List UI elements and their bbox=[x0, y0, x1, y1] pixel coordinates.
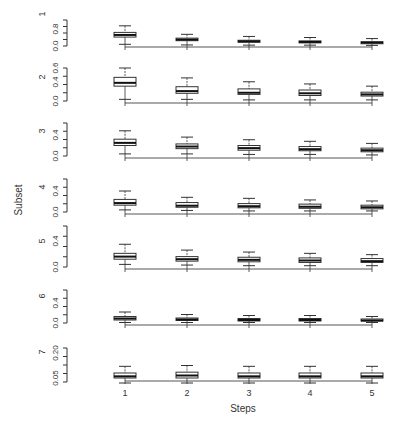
y-tick-label: 0.4 bbox=[51, 235, 60, 247]
box-step-3 bbox=[238, 82, 260, 106]
x-tick-label: 1 bbox=[122, 388, 127, 398]
x-tick-label: 4 bbox=[307, 388, 312, 398]
panel-6: 0.00.46 bbox=[37, 290, 383, 329]
y-tick-label: 0.0 bbox=[51, 206, 60, 218]
box-step-4 bbox=[299, 316, 321, 329]
panel-7: 0.050.207 bbox=[37, 345, 383, 386]
box-step-2 bbox=[176, 34, 198, 50]
panel-label: 6 bbox=[37, 293, 47, 298]
panel-label: 4 bbox=[37, 184, 47, 189]
x-tick-label: 2 bbox=[184, 388, 189, 398]
box-step-1 bbox=[114, 244, 136, 272]
y-tick-label: 0.0 bbox=[51, 150, 60, 162]
box-step-1 bbox=[114, 312, 136, 328]
panel-3: 0.00.43 bbox=[37, 123, 383, 162]
panels-group: 0.00.810.00.40.620.00.430.00.440.00.450.… bbox=[37, 11, 383, 385]
y-tick-label: 0.0 bbox=[51, 317, 60, 329]
panel-label: 5 bbox=[37, 238, 47, 243]
panel-5: 0.00.45 bbox=[37, 226, 383, 273]
panel-4: 0.00.44 bbox=[37, 179, 383, 218]
y-axis-title: Subset bbox=[13, 184, 24, 215]
x-tick-label: 5 bbox=[369, 388, 374, 398]
box-step-1 bbox=[114, 191, 136, 217]
box-step-2 bbox=[176, 78, 198, 106]
y-tick-label: 0.0 bbox=[51, 95, 60, 107]
y-tick-label: 0.6 bbox=[51, 62, 60, 74]
boxplot-figure: 0.00.810.00.40.620.00.430.00.440.00.450.… bbox=[0, 0, 402, 427]
y-tick-label: 0.4 bbox=[51, 297, 60, 309]
box-step-3 bbox=[238, 36, 260, 50]
y-tick-label: 0.8 bbox=[51, 23, 60, 35]
box-step-2 bbox=[176, 315, 198, 329]
y-tick-label: 0.05 bbox=[51, 370, 60, 386]
panel-2: 0.00.40.62 bbox=[37, 62, 383, 107]
x-axis: 12345 bbox=[122, 388, 374, 398]
panel-label: 1 bbox=[37, 11, 47, 16]
panel-label: 7 bbox=[37, 349, 47, 354]
box-step-1 bbox=[114, 68, 136, 106]
y-tick-label: 0.4 bbox=[51, 185, 60, 197]
y-tick-label: 0.20 bbox=[51, 345, 60, 361]
x-axis-title: Steps bbox=[230, 403, 256, 414]
box-step-1 bbox=[114, 26, 136, 50]
y-tick-label: 0.4 bbox=[51, 76, 60, 88]
x-tick-label: 3 bbox=[246, 388, 251, 398]
panel-1: 0.00.81 bbox=[37, 11, 383, 51]
box-step-4 bbox=[299, 38, 321, 51]
box-step-5 bbox=[361, 201, 383, 217]
box-step-3 bbox=[238, 316, 260, 329]
box-step-1 bbox=[114, 131, 136, 161]
box-step-2 bbox=[176, 137, 198, 161]
panel-label: 2 bbox=[37, 74, 47, 79]
panel-label: 3 bbox=[37, 128, 47, 133]
y-tick-label: 0.0 bbox=[51, 40, 60, 52]
plot-canvas: 0.00.810.00.40.620.00.430.00.440.00.450.… bbox=[0, 0, 402, 427]
y-tick-label: 0.4 bbox=[51, 129, 60, 141]
box-step-5 bbox=[361, 317, 383, 329]
box-step-5 bbox=[361, 39, 383, 50]
y-tick-label: 0.0 bbox=[51, 261, 60, 273]
